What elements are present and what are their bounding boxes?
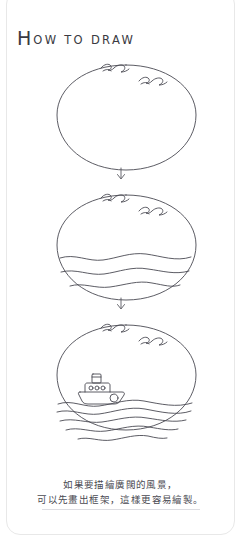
caption-underline [42, 509, 200, 510]
wave-line [60, 254, 191, 261]
wave-line [78, 435, 167, 440]
caption-block: 如果要描繪廣闊的風景， 可以先畫出框架，這樣更容易繪製。 [0, 478, 241, 510]
wave-line [70, 282, 180, 287]
step-3-illustration [0, 312, 241, 452]
wave-line [66, 426, 178, 431]
oval-outline [57, 65, 196, 170]
bird-icon [139, 337, 167, 345]
arrow-step2-to-step3 [0, 296, 241, 312]
arrow-step1-to-step2 [0, 166, 241, 182]
page-title: H OW TO DRAW [17, 29, 135, 49]
page-title-initial: H [17, 29, 32, 48]
page-title-rest: OW TO DRAW [33, 34, 135, 46]
oval-outline [57, 325, 196, 430]
wave-line [58, 400, 192, 406]
step-2-illustration [0, 182, 241, 310]
caption-line-1: 如果要描繪廣闊的風景， [0, 478, 241, 493]
how-to-draw-tutorial-sheet: H OW TO DRAW [0, 0, 241, 553]
step-1-illustration [0, 52, 241, 180]
bird-icon [139, 207, 167, 215]
boat-icon [78, 374, 124, 404]
wave-line [61, 268, 189, 274]
bird-icon [139, 77, 167, 85]
wave-line [57, 408, 191, 414]
caption-line-2: 可以先畫出框架，這樣更容易繪製。 [0, 493, 241, 508]
